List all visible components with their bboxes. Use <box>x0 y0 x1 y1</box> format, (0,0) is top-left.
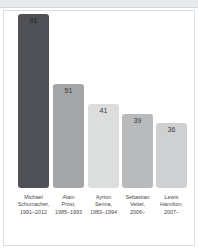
bar-lewis-hamilton[interactable]: 36 <box>156 123 187 188</box>
plot-area: 91 51 41 39 36 Michael Schumacher, 1991–… <box>0 0 198 251</box>
bar-value-ayrton-senna: 41 <box>88 107 119 115</box>
chart-figure: 91 51 41 39 36 Michael Schumacher, 1991–… <box>0 0 198 251</box>
bottom-band <box>0 247 198 251</box>
category-label-lewis-hamilton: Lewis Hamilton, 2007– <box>144 194 198 216</box>
bar-value-sebastian-vettel: 39 <box>122 117 153 125</box>
bar-sebastian-vettel[interactable]: 39 <box>122 114 153 188</box>
bar-value-alain-prost: 51 <box>53 87 84 95</box>
bar-value-michael-schumacher: 91 <box>18 17 49 25</box>
bar-michael-schumacher[interactable]: 91 <box>18 14 49 188</box>
bar-ayrton-senna[interactable]: 41 <box>88 104 119 188</box>
category-name-line1: Lewis <box>144 194 198 201</box>
category-name-line2: Hamilton, <box>144 201 198 208</box>
bar-alain-prost[interactable]: 51 <box>53 84 84 188</box>
category-years: 2007– <box>144 209 198 216</box>
bar-value-lewis-hamilton: 36 <box>156 126 187 134</box>
